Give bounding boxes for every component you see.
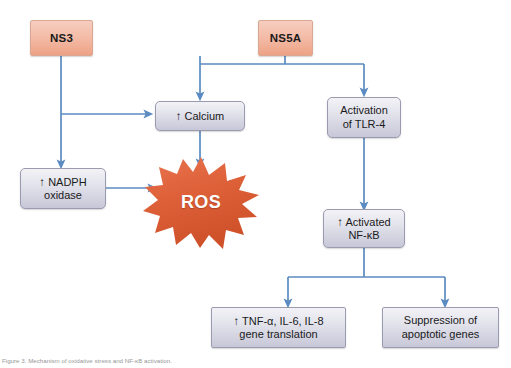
node-cytokine-genes[interactable]: ↑ TNF-α, IL-6, IL-8 gene translation bbox=[211, 307, 346, 348]
increase-arrow-icon: ↑ bbox=[337, 216, 343, 228]
node-calcium-label: Calcium bbox=[185, 110, 225, 122]
node-cytokines-line2: gene translation bbox=[239, 328, 317, 340]
node-nadph-line2: oxidase bbox=[44, 189, 82, 201]
node-cytokines-line1: TNF-α, IL-6, IL-8 bbox=[242, 315, 324, 327]
node-apoptosis-text: Suppression of apoptotic genes bbox=[398, 314, 484, 341]
edge-ns5a-bus bbox=[200, 56, 364, 64]
node-apoptosis-line1: Suppression of bbox=[404, 314, 477, 326]
node-activation-tlr4[interactable]: Activation of TLR-4 bbox=[327, 97, 401, 138]
figure-caption: Figure 3. Mechanism of oxidative stress … bbox=[2, 357, 332, 364]
node-calcium[interactable]: ↑ Calcium bbox=[155, 101, 245, 131]
node-ns3[interactable]: NS3 bbox=[30, 20, 93, 56]
node-calcium-text: ↑ Calcium bbox=[172, 109, 229, 123]
node-nadph-line1: NADPH bbox=[48, 176, 87, 188]
node-nfkb-line2: NF-κB bbox=[348, 229, 379, 241]
node-apoptosis-line2: apoptotic genes bbox=[402, 328, 480, 340]
node-cytokines-text: ↑ TNF-α, IL-6, IL-8 gene translation bbox=[229, 314, 327, 342]
node-ns5a[interactable]: NS5A bbox=[258, 20, 313, 56]
edge-nfkb-bus bbox=[288, 248, 445, 277]
node-nadph-text: ↑ NADPH oxidase bbox=[35, 175, 90, 203]
node-tlr4-line2: of TLR-4 bbox=[343, 118, 386, 130]
increase-arrow-icon: ↑ bbox=[233, 315, 239, 327]
node-tlr4-text: Activation of TLR-4 bbox=[336, 104, 392, 131]
node-activated-nfkb[interactable]: ↑ Activated NF-κB bbox=[323, 209, 405, 248]
node-apoptosis-suppression[interactable]: Suppression of apoptotic genes bbox=[382, 307, 499, 348]
figure-canvas: NS3 NS5A ↑ Calcium ↑ NADPH oxidase ROS bbox=[0, 0, 511, 368]
node-nfkb-text: ↑ Activated NF-κB bbox=[333, 215, 394, 243]
node-ns5a-label: NS5A bbox=[266, 31, 305, 45]
node-ros[interactable]: ROS bbox=[143, 155, 259, 249]
increase-arrow-icon: ↑ bbox=[39, 176, 45, 188]
node-nadph-oxidase[interactable]: ↑ NADPH oxidase bbox=[20, 168, 106, 209]
node-nfkb-line1: Activated bbox=[345, 216, 390, 228]
node-ns3-label: NS3 bbox=[46, 31, 77, 45]
node-tlr4-line1: Activation bbox=[340, 104, 388, 116]
increase-arrow-icon: ↑ bbox=[176, 110, 182, 122]
node-ros-label: ROS bbox=[181, 192, 221, 213]
